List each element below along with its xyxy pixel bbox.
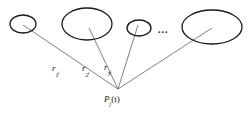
- connector-r4: [118, 28, 212, 89]
- ellipse-4: [182, 10, 242, 44]
- label-point-suffix: (t): [111, 94, 120, 104]
- connector-group: [23, 25, 212, 89]
- ellipse-1: [10, 15, 36, 33]
- ellipse-2: [62, 8, 112, 40]
- label-r1-base: r: [52, 63, 56, 73]
- distance-label-r3: r3j: [104, 57, 112, 75]
- label-r3-sub2: j: [110, 69, 111, 74]
- ellipse-group: [10, 8, 242, 44]
- label-r2-sub2: j: [88, 70, 89, 75]
- label-point-sub: j: [110, 101, 112, 107]
- ellipsis-label: ...: [158, 24, 169, 35]
- label-r1-sub2: j: [58, 70, 59, 75]
- distance-label-r2: r2j: [82, 58, 90, 76]
- label-r2-base: r: [82, 63, 86, 73]
- connector-r3: [118, 25, 138, 89]
- label-point-base: P: [104, 94, 110, 104]
- distance-label-r1: r1j: [52, 58, 60, 76]
- figure-graphics: [0, 0, 249, 116]
- ellipse-3: [127, 20, 151, 36]
- label-r3-base: r: [104, 62, 108, 72]
- figure-canvas: r1j r2j r3j ... Pj(t): [0, 0, 249, 116]
- source-point-label: Pj(t): [104, 95, 120, 106]
